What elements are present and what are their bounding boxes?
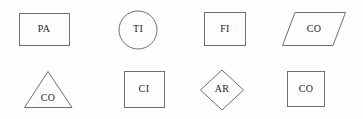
shape-diagram-canvas: PA TI FI CO CO CI: [0, 0, 363, 119]
shape-label-co-square: CO: [299, 83, 314, 94]
square-co-graphic: CO: [0, 0, 363, 119]
shape-square-co[interactable]: CO: [0, 0, 363, 119]
